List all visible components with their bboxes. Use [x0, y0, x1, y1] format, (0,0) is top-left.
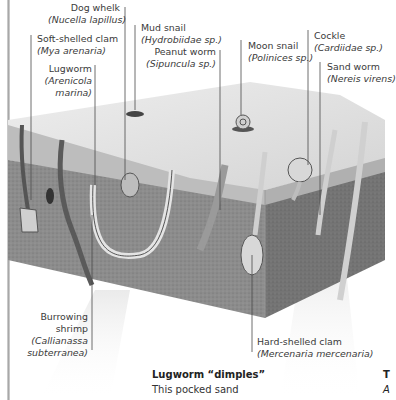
label-cockle: Cockle (Cardiidae sp.): [314, 30, 383, 54]
label-sand-worm: Sand worm (Nereis virens): [327, 61, 396, 85]
label-mud-snail: Mud snail (Hydrobiidae sp.): [141, 22, 222, 46]
label-lugworm: Lugworm (Arenicola marina): [40, 63, 92, 99]
mud-snail-figure: [126, 111, 144, 117]
label-hard-shelled-clam: Hard-shelled clam (Mercenaria mercenaria…: [257, 336, 373, 360]
dog-whelk-figure: [121, 173, 139, 197]
caption-title: Lugworm “dimples”: [152, 369, 265, 380]
label-peanut-worm: Peanut worm (Sipuncula sp.): [140, 46, 216, 70]
caption-body: This pocked sand: [152, 384, 239, 395]
side-text-line1: T: [383, 369, 390, 380]
label-soft-shelled-clam: Soft-shelled clam (Mya arenaria): [37, 33, 118, 57]
label-moon-snail: Moon snail (Polinices sp.): [248, 40, 313, 64]
label-burrowing-shrimp: Burrowing shrimp (Callianassa subterrane…: [20, 311, 88, 359]
side-text-line2: A: [383, 384, 390, 395]
label-dog-whelk: Dog whelk (Nucella lapillus): [48, 2, 120, 26]
